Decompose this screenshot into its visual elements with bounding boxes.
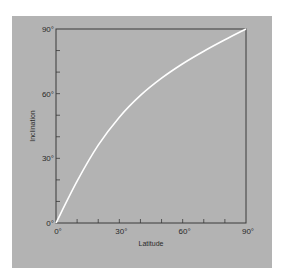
y-tick-label: 30° (42, 154, 54, 163)
plot-frame (56, 29, 246, 223)
x-tick-label: 0° (54, 227, 62, 236)
x-tick-label: 60° (179, 227, 191, 236)
y-tick-label: 90° (42, 25, 54, 34)
y-tick-label: 60° (42, 90, 54, 99)
y-tick-label: 0° (46, 219, 54, 228)
x-axis-title: Latitude (139, 240, 164, 247)
x-tick-label: 90° (242, 227, 254, 236)
tick-labels: 0°30°60°90°0°30°60°90° (42, 25, 254, 236)
y-axis-title: Inclination (29, 110, 36, 142)
axis-ticks (56, 51, 225, 223)
plot-border (56, 29, 246, 223)
chart: 0°30°60°90°0°30°60°90° Latitude Inclinat… (0, 0, 284, 278)
inclination-curve (56, 29, 246, 223)
x-tick-label: 30° (115, 227, 127, 236)
